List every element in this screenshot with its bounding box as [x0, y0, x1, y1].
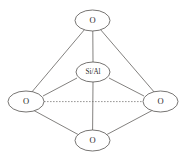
bond-top-left [31, 29, 85, 93]
node-o-left: O [8, 91, 44, 112]
diagram-canvas: O Si/Al O O O [0, 0, 182, 158]
bond-right-bottom [106, 110, 153, 135]
bond-center-right [109, 78, 144, 96]
node-label-o-right: O [157, 96, 163, 106]
bond-center-left [43, 78, 77, 96]
node-si-al-center: Si/Al [76, 62, 110, 82]
node-label-o-left: O [23, 96, 29, 106]
bond-top-right [100, 29, 155, 93]
bond-left-bottom [33, 110, 79, 135]
node-o-top: O [75, 10, 110, 31]
node-o-right: O [143, 91, 178, 112]
tetrahedron-diagram: O Si/Al O O O [0, 0, 182, 158]
node-o-bottom: O [75, 130, 110, 151]
node-label-o-bottom: O [89, 135, 95, 145]
node-label-o-top: O [89, 15, 95, 25]
node-label-si-al: Si/Al [85, 68, 100, 76]
